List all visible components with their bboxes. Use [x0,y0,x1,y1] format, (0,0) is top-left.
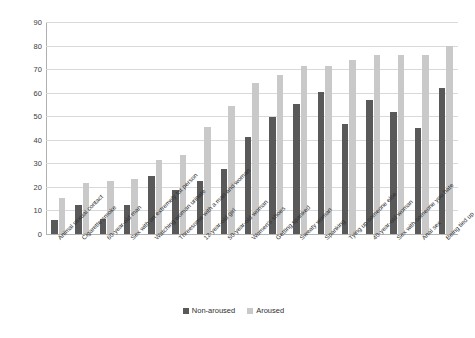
y-axis-tick-label: 70 [20,65,42,74]
y-axis-tick-label: 50 [20,112,42,121]
y-axis-tick-label: 90 [20,18,42,27]
y-axis-tick-label: 10 [20,206,42,215]
legend-label: Aroused [256,306,284,315]
legend-swatch-icon [247,308,253,314]
chart-legend: Non-arousedAroused [0,306,467,315]
legend-label: Non-aroused [192,306,235,315]
x-axis-labels: Animal sexual contactCigarette smoke60-y… [46,236,458,306]
y-axis-tick-label: 30 [20,159,42,168]
bar-group [46,22,70,234]
legend-swatch-icon [183,308,189,314]
bar-aroused [204,127,211,234]
y-axis-tick-label: 80 [20,42,42,51]
bar-non-aroused [51,220,58,234]
y-axis-tick-label: 40 [20,136,42,145]
legend-item[interactable]: Aroused [247,306,284,315]
y-axis-tick-label: 20 [20,183,42,192]
y-axis-tick-label: 0 [20,230,42,239]
bar-group [119,22,143,234]
bar-non-aroused [439,88,446,234]
bar-group [313,22,337,234]
bar-group [288,22,312,234]
bar-aroused [446,46,453,234]
legend-item[interactable]: Non-aroused [183,306,235,315]
bar-aroused [156,160,163,234]
bar-series-container [46,22,458,234]
bar-aroused [180,155,187,234]
y-axis-tick-label: 60 [20,89,42,98]
bar-non-aroused [342,124,349,234]
plot-area [46,22,458,234]
bar-aroused [349,60,356,234]
bar-group [337,22,361,234]
